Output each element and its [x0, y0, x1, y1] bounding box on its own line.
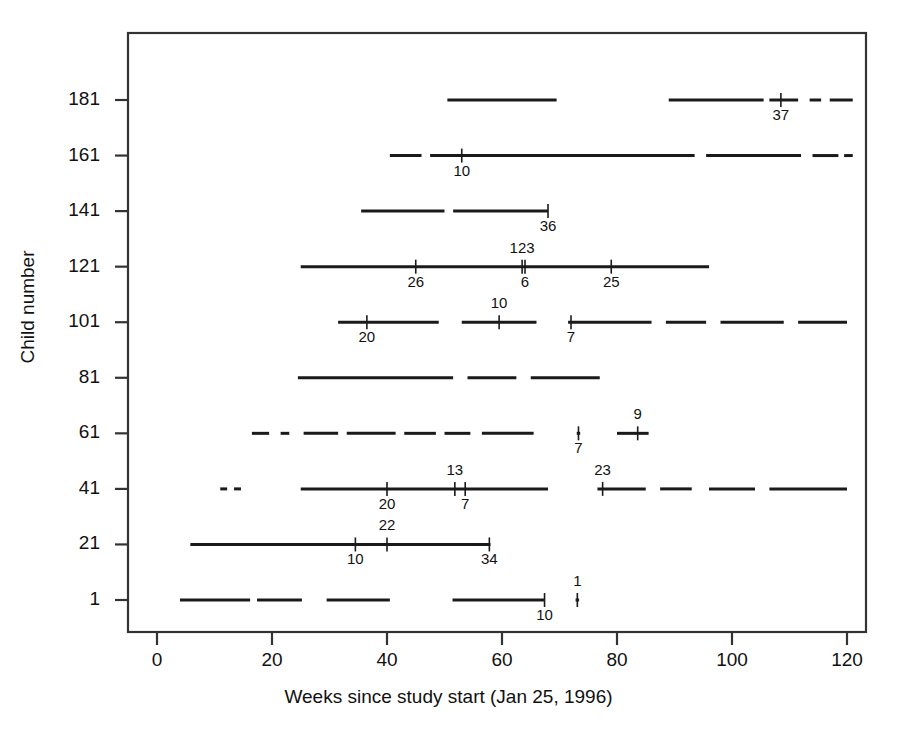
x-tick-label: 80 — [577, 649, 657, 671]
event-count-label: 10 — [459, 294, 539, 311]
y-tick-label: 1 — [18, 588, 100, 610]
event-count-label: 6 — [485, 273, 565, 290]
y-tick-label: 181 — [18, 88, 100, 110]
y-axis-label: Child number — [17, 217, 39, 397]
x-tick-label: 100 — [692, 649, 772, 671]
event-count-label: 10 — [315, 550, 395, 567]
x-tick-label: 20 — [232, 649, 312, 671]
event-count-label: 9 — [598, 405, 678, 422]
event-count-label: 7 — [531, 328, 611, 345]
event-count-label: 7 — [538, 439, 618, 456]
event-count-label: 20 — [347, 495, 427, 512]
y-tick-label: 61 — [18, 421, 100, 443]
y-tick-label: 21 — [18, 532, 100, 554]
event-count-label: 26 — [376, 273, 456, 290]
x-tick-label: 0 — [117, 649, 197, 671]
x-tick-label: 60 — [462, 649, 542, 671]
event-count-label: 34 — [449, 550, 529, 567]
event-count-label: 25 — [571, 273, 651, 290]
event-count-label: 23 — [563, 461, 643, 478]
event-count-label: 7 — [425, 495, 505, 512]
x-tick-label: 120 — [807, 649, 887, 671]
y-tick-label: 161 — [18, 144, 100, 166]
x-axis-label: Weeks since study start (Jan 25, 1996) — [0, 686, 897, 708]
event-count-label: 37 — [741, 106, 821, 123]
event-count-label: 123 — [482, 239, 562, 256]
x-tick-label: 40 — [347, 649, 427, 671]
event-count-label: 36 — [508, 217, 588, 234]
event-count-label: 13 — [415, 461, 495, 478]
event-count-label: 10 — [505, 606, 585, 623]
event-count-label: 1 — [537, 572, 617, 589]
y-tick-label: 41 — [18, 477, 100, 499]
event-count-label: 10 — [422, 162, 502, 179]
event-count-label: 22 — [347, 516, 427, 533]
event-count-label: 20 — [327, 328, 407, 345]
chart-figure: Figure legend (cropped) 0204060801001201… — [0, 0, 897, 747]
